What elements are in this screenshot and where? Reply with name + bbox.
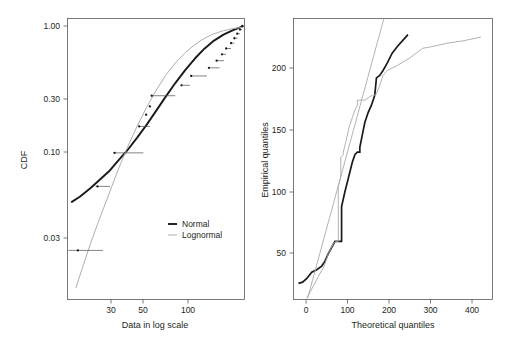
cdf-legend: Normal Lognormal bbox=[168, 219, 222, 240]
cdf-panel-svg: 1.00 0.30 0.10 0.03 CDF 30 50 100 Da bbox=[0, 0, 260, 337]
cdf-y-axis-title: CDF bbox=[19, 150, 29, 169]
qq-plot-frame bbox=[294, 19, 493, 300]
cdf-point-2 bbox=[113, 152, 115, 154]
qq-ytick-label-0: 50 bbox=[277, 248, 287, 258]
legend-label-normal: Normal bbox=[182, 219, 210, 229]
cdf-point-5 bbox=[149, 105, 151, 107]
cdf-xtick-label-2: 100 bbox=[181, 305, 195, 315]
cdf-point-0 bbox=[77, 249, 79, 251]
qq-curve-2 bbox=[308, 19, 384, 299]
cdf-point-6 bbox=[151, 95, 153, 97]
qq-xtick-label-1: 100 bbox=[340, 305, 354, 315]
cdf-point-4 bbox=[145, 114, 147, 116]
qq-xtick-label-3: 300 bbox=[423, 305, 437, 315]
cdf-data-layer bbox=[68, 25, 243, 288]
cdf-ytick-label-2: 0.10 bbox=[43, 147, 60, 157]
qq-xtick-label-4: 400 bbox=[465, 305, 479, 315]
cdf-point-16 bbox=[239, 28, 241, 30]
cdf-x-axis-title: Data in log scale bbox=[122, 320, 189, 330]
cdf-point-14 bbox=[233, 37, 235, 39]
cdf-point-9 bbox=[208, 67, 210, 69]
cdf-point-8 bbox=[190, 75, 192, 77]
cdf-curve-normal bbox=[72, 26, 243, 201]
cdf-ytick-label-0: 1.00 bbox=[43, 21, 60, 31]
cdf-point-12 bbox=[225, 47, 227, 49]
qq-x-axis: 0 100 200 300 400 bbox=[304, 300, 480, 316]
cdf-point-13 bbox=[230, 42, 232, 44]
qq-xtick-label-0: 0 bbox=[304, 305, 309, 315]
cdf-x-axis: 30 50 100 bbox=[106, 300, 195, 316]
cdf-point-17 bbox=[241, 25, 243, 27]
cdf-point-15 bbox=[236, 33, 238, 35]
cdf-y-axis: 1.00 0.30 0.10 0.03 bbox=[43, 21, 67, 243]
cdf-xtick-label-0: 30 bbox=[106, 305, 116, 315]
cdf-xtick-label-1: 50 bbox=[138, 305, 148, 315]
qq-ytick-label-3: 200 bbox=[272, 63, 286, 73]
qq-ytick-label-1: 100 bbox=[272, 187, 286, 197]
qq-xtick-label-2: 200 bbox=[382, 305, 396, 315]
cdf-point-11 bbox=[221, 53, 223, 55]
cdf-point-7 bbox=[180, 84, 182, 86]
cdf-point-3 bbox=[138, 125, 140, 127]
qq-curve-0 bbox=[298, 35, 407, 284]
cdf-panel: 1.00 0.30 0.10 0.03 CDF 30 50 100 Da bbox=[0, 0, 260, 337]
cdf-point-1 bbox=[96, 185, 98, 187]
qq-panel: 50 100 150 200 Empirical quantiles 0 100… bbox=[255, 0, 510, 337]
qq-ytick-label-2: 150 bbox=[272, 125, 286, 135]
qq-y-axis: 50 100 150 200 bbox=[272, 63, 294, 258]
qq-panel-svg: 50 100 150 200 Empirical quantiles 0 100… bbox=[255, 0, 510, 337]
legend-label-lognormal: Lognormal bbox=[182, 230, 222, 240]
qq-data-layer bbox=[298, 19, 480, 299]
cdf-ytick-label-3: 0.03 bbox=[43, 233, 60, 243]
figure-container: 1.00 0.30 0.10 0.03 CDF 30 50 100 Da bbox=[0, 0, 510, 337]
cdf-ytick-label-1: 0.30 bbox=[43, 94, 60, 104]
qq-x-axis-title: Theoretical quantiles bbox=[351, 320, 435, 330]
cdf-point-10 bbox=[215, 60, 217, 62]
cdf-curve-lognormal bbox=[76, 27, 243, 288]
qq-y-axis-title: Empirical quantiles bbox=[260, 122, 270, 198]
qq-curve-1 bbox=[307, 37, 481, 298]
